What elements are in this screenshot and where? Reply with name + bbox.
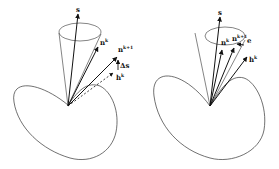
- hk-vector: [68, 73, 113, 106]
- nk-vector: [68, 47, 98, 106]
- label-nk1: nk+1: [232, 34, 247, 43]
- label-e: e: [247, 36, 252, 45]
- label-s: s: [76, 5, 80, 14]
- label-delta-s: Δs: [120, 61, 129, 70]
- label-s: s: [218, 8, 222, 17]
- s-vector: [68, 14, 78, 106]
- surface-blob: [154, 76, 265, 160]
- left-figure: s nk nk+1 Δs hk: [14, 5, 133, 160]
- surface-blob: [14, 85, 117, 160]
- label-hk: hk: [249, 55, 258, 64]
- label-nk1: nk+1: [118, 45, 133, 54]
- diagram-canvas: s nk nk+1 Δs hk s nk nk+1 e hk: [0, 0, 279, 169]
- label-nk: nk: [100, 38, 109, 47]
- nk1-vector: [68, 57, 117, 106]
- right-figure: s nk nk+1 e hk: [154, 8, 265, 160]
- label-hk: hk: [116, 73, 125, 82]
- cone-rim: [59, 23, 101, 41]
- label-nk: nk: [221, 38, 230, 47]
